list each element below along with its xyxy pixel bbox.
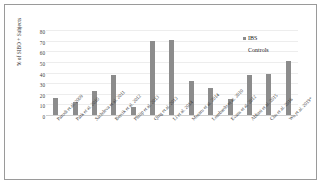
x-label-slot: Qing et al. 2013 (143, 116, 162, 176)
y-tick-label: 50 (40, 62, 45, 67)
y-tick-label: 30 (40, 83, 45, 88)
x-label-slot: Sachdeva et al. 2011 (85, 116, 104, 176)
chart-frame: % of SIBO + Subjects 80706050403020100 P… (4, 4, 317, 180)
x-axis-tick-labels: Parodi et al. 2009Park et al. 2010Sachde… (46, 116, 298, 182)
legend-item-ibs: IBS (243, 35, 313, 41)
x-label-slot: Wu et al. 2019* (279, 116, 298, 176)
y-tick-label: 70 (40, 41, 45, 46)
legend-swatch-controls (243, 49, 246, 52)
y-tick-label: 60 (40, 51, 45, 56)
legend-swatch-ibs (243, 37, 246, 40)
x-label-slot: Parodi et al. 2009 (46, 116, 65, 176)
chart-legend: IBS Controls (243, 35, 313, 59)
y-axis-title: % of SIBO + Subjects (16, 4, 22, 80)
x-label-slot: Park et al. 2010 (65, 116, 84, 176)
bar-slot (46, 30, 65, 115)
bar (53, 98, 58, 115)
x-label-slot: Abbasi et al. 2015 (240, 116, 259, 176)
legend-item-controls: Controls (243, 47, 313, 53)
bar (266, 74, 271, 115)
x-label-slot: Bercik et al. 2012 (104, 116, 123, 176)
bar (131, 107, 136, 116)
x-label-slot: Moraru et al. 2014 (182, 116, 201, 176)
y-tick-label: 40 (40, 73, 45, 78)
x-label-slot: Evans et al. 2012 (220, 116, 239, 176)
y-tick-label: 10 (40, 104, 45, 109)
x-label-slot: Chu et al. 2016 (259, 116, 278, 176)
x-label-slot: Philip et al. 2013 (124, 116, 143, 176)
y-tick-label: 80 (40, 30, 45, 35)
legend-label-controls: Controls (248, 47, 269, 53)
legend-label-ibs: IBS (248, 35, 257, 41)
y-tick-label: 20 (40, 94, 45, 99)
bar (189, 81, 194, 115)
y-tick-label: 0 (42, 115, 45, 120)
y-axis-tick-labels: 80706050403020100 (23, 25, 45, 121)
x-label-slot: Li et al. 2014 (162, 116, 181, 176)
x-label-slot: Lombardo et al. 2010 (201, 116, 220, 176)
